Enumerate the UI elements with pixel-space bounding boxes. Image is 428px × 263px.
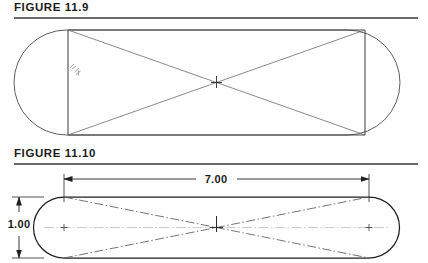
figure-11-10-rule (14, 163, 418, 165)
figure-11-9-drawing (0, 22, 428, 144)
slot-outline (14, 30, 400, 135)
dimension-length: 7.00 (64, 173, 369, 185)
figure-11-10-header: FIGURE 11.10 (0, 146, 428, 166)
figure-11-10-title: FIGURE 11.10 (14, 147, 96, 159)
center-mark-right-icon (366, 224, 373, 231)
figure-11-9-title: FIGURE 11.9 (14, 1, 89, 13)
figure-page: FIGURE 11.9 (0, 0, 428, 263)
center-mark-icon (211, 76, 222, 88)
figure-11-10-drawing: 7.00 1.00 (0, 168, 428, 263)
dimension-width: 1.00 (8, 197, 31, 258)
figure-11-9-rule (14, 17, 418, 19)
center-mark-left-icon (61, 224, 68, 231)
dimension-width-value: 1.00 (8, 218, 31, 230)
dimension-length-value: 7.00 (205, 173, 228, 185)
figure-11-9-header: FIGURE 11.9 (0, 0, 428, 20)
annotation-mark-icon (70, 64, 81, 76)
center-mark-middle-icon (210, 216, 223, 232)
